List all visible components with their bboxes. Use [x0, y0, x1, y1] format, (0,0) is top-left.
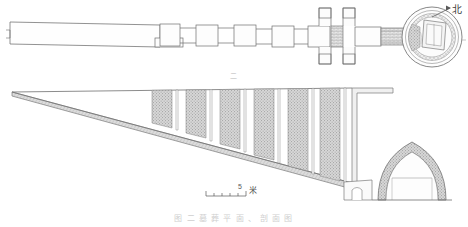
archaeological-tomb-drawing: 北 5 米 二 图 二 墓 葬 平 面 、 剖 面 图: [0, 0, 468, 227]
plan-cross-shaft-2: [331, 8, 355, 64]
scale-bar: [206, 191, 246, 196]
figure-mark: 二: [230, 70, 237, 80]
plan-ramp: [6, 22, 160, 47]
plan-gate-chambers: [160, 24, 330, 47]
scale-bar-value: 5: [238, 183, 242, 190]
section-shafts: [152, 88, 346, 184]
drawing-canvas: [0, 0, 468, 227]
scale-bar-unit: 米: [249, 184, 257, 195]
north-direction-label: 北: [452, 1, 462, 16]
figure-caption: 图 二 墓 葬 平 面 、 剖 面 图: [0, 212, 468, 227]
plan-coffin-platform: [422, 20, 446, 50]
section-vaulted-chamber: [372, 142, 452, 200]
section-doorway: [344, 180, 372, 200]
